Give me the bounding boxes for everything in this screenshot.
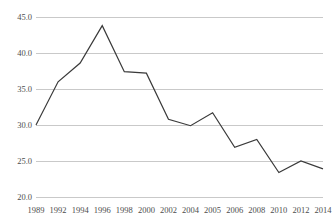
- y-axis-tick-label: 30.0: [0, 121, 32, 129]
- x-axis-tick-label: 1994: [72, 205, 89, 215]
- x-axis-labels: 1989199219941996199820002002200420052006…: [36, 205, 323, 217]
- plot-area: [36, 17, 323, 197]
- data-line: [36, 26, 323, 173]
- x-axis-tick-label: 2008: [248, 205, 265, 215]
- y-axis-tick-label: 45.0: [0, 13, 32, 21]
- y-axis-labels: 45.040.035.030.025.020.0: [0, 17, 32, 197]
- chart-title: [0, 0, 331, 5]
- gridline-20-0: [36, 197, 323, 198]
- x-axis-tick-label: 2005: [204, 205, 221, 215]
- x-axis-tick-label: 2000: [138, 205, 155, 215]
- x-axis-tick-label: 1996: [94, 205, 111, 215]
- series-line: [36, 17, 323, 197]
- y-axis-tick-label: 20.0: [0, 193, 32, 201]
- x-axis-tick-label: 2006: [226, 205, 243, 215]
- x-axis-tick-label: 2012: [292, 205, 309, 215]
- x-axis-tick-label: 2004: [182, 205, 199, 215]
- x-axis-tick-label: 1998: [116, 205, 133, 215]
- y-axis-tick-label: 40.0: [0, 49, 32, 57]
- x-axis-tick-label: 1992: [50, 205, 67, 215]
- x-axis-tick-label: 2010: [270, 205, 287, 215]
- x-axis-tick-label: 2002: [160, 205, 177, 215]
- x-axis-tick-label: 1989: [28, 205, 45, 215]
- y-axis-tick-label: 25.0: [0, 157, 32, 165]
- x-axis-tick-label: 2014: [315, 205, 332, 215]
- y-axis-tick-label: 35.0: [0, 85, 32, 93]
